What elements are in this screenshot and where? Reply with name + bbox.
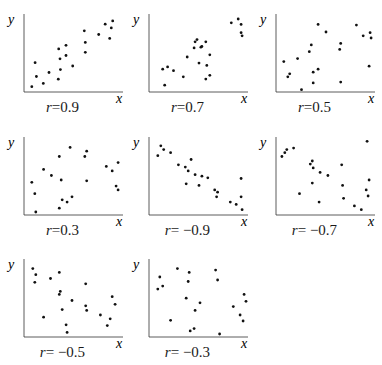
data-point — [110, 27, 113, 30]
data-point — [99, 314, 102, 317]
r-value: = −0.3 — [171, 344, 210, 360]
data-point — [243, 293, 246, 296]
data-point — [65, 323, 68, 326]
data-point — [240, 177, 243, 180]
data-point — [283, 151, 286, 154]
data-point — [30, 85, 33, 88]
data-point — [60, 179, 63, 182]
data-point — [310, 44, 313, 47]
data-point — [34, 61, 37, 64]
data-point — [71, 195, 74, 198]
data-point — [327, 174, 330, 177]
correlation-label: r= −0.5 — [0, 344, 125, 361]
data-point — [42, 82, 45, 85]
data-point — [111, 20, 114, 23]
r-value: = −0.9 — [171, 222, 210, 238]
data-point — [114, 303, 117, 306]
data-point — [366, 140, 369, 143]
r-value: = −0.7 — [298, 222, 337, 238]
y-axis-label: y — [131, 135, 140, 150]
data-point — [300, 88, 303, 91]
data-point — [105, 165, 108, 168]
scatter-panel-r-neg-0.5: yxr= −0.5 — [0, 245, 125, 365]
data-point — [308, 50, 311, 53]
data-point — [355, 24, 358, 27]
data-point — [35, 75, 38, 78]
data-point — [245, 300, 248, 303]
data-point — [194, 173, 197, 176]
data-point — [311, 160, 314, 163]
data-point — [58, 155, 61, 158]
data-point — [240, 195, 243, 198]
r-value: =0.7 — [177, 99, 204, 115]
data-point — [309, 163, 312, 166]
correlation-label: r= −0.3 — [125, 344, 250, 361]
data-point — [205, 64, 208, 67]
data-point — [362, 34, 365, 37]
data-point — [59, 68, 62, 71]
y-axis-label: y — [258, 135, 267, 150]
data-point — [65, 44, 68, 47]
data-point — [285, 148, 288, 151]
data-point — [218, 333, 221, 336]
data-point — [117, 161, 120, 164]
data-point — [58, 271, 61, 274]
data-point — [71, 299, 74, 302]
data-point — [340, 163, 343, 166]
data-point — [188, 271, 191, 274]
data-point — [235, 203, 238, 206]
correlation-label: r=0.7 — [125, 99, 250, 116]
data-point — [162, 148, 165, 151]
y-axis-label: y — [6, 257, 15, 272]
data-point — [338, 48, 341, 51]
data-point — [84, 51, 87, 54]
data-point — [282, 60, 285, 63]
data-point — [325, 31, 328, 34]
data-point — [311, 182, 314, 185]
data-point — [108, 37, 111, 40]
data-point — [65, 54, 68, 57]
data-point — [161, 68, 164, 71]
correlation-label: r=0.5 — [252, 99, 377, 116]
data-point — [184, 166, 187, 169]
data-point — [84, 41, 87, 44]
y-axis-label: y — [131, 257, 140, 272]
axes — [24, 137, 123, 215]
data-point — [83, 155, 86, 158]
data-point — [208, 74, 211, 77]
data-point — [85, 179, 88, 182]
data-point — [182, 75, 185, 78]
scatter-panel-r-0.9: yxr=0.9 — [0, 0, 125, 122]
data-point — [57, 48, 60, 51]
data-point — [58, 293, 61, 296]
correlation-label: r=0.3 — [0, 222, 125, 239]
data-point — [33, 192, 36, 195]
scatter-panel-r-0.3: yxr=0.3 — [0, 123, 125, 245]
data-point — [216, 279, 219, 282]
data-point — [106, 324, 109, 327]
data-point — [370, 37, 373, 40]
data-point — [196, 38, 199, 41]
data-point — [177, 163, 180, 166]
data-point — [365, 189, 368, 192]
data-point — [50, 174, 53, 177]
data-point — [214, 269, 217, 272]
data-point — [312, 71, 315, 74]
data-point — [33, 281, 36, 284]
data-point — [169, 151, 172, 154]
data-point — [319, 171, 322, 174]
scatter-panel-r-neg-0.9: yxr= −0.9 — [125, 123, 250, 245]
data-point — [42, 316, 45, 319]
data-point — [360, 208, 363, 211]
data-point — [166, 66, 169, 69]
data-point — [109, 317, 112, 320]
data-point — [97, 33, 100, 36]
scatter-panel-r-neg-0.3: yxr= −0.3 — [125, 245, 250, 365]
data-point — [49, 277, 52, 280]
data-point — [230, 21, 233, 24]
data-point — [237, 18, 240, 21]
axes — [149, 259, 248, 337]
data-point — [83, 29, 86, 32]
data-point — [193, 327, 196, 330]
data-point — [156, 154, 159, 157]
